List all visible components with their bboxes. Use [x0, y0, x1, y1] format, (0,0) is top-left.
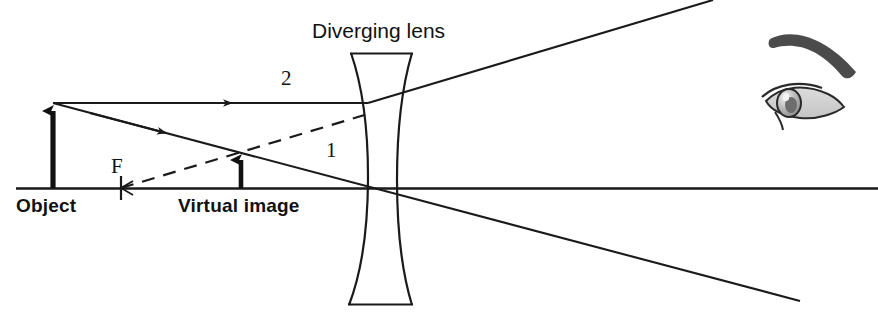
object-label: Object: [16, 196, 76, 215]
diverging-lens-figure: Diverging lens Object Virtual image F 2 …: [0, 0, 878, 323]
focal-point-label: F: [111, 156, 123, 177]
eyebrow-icon: [769, 34, 856, 78]
eye-highlight-icon: [783, 93, 789, 101]
diverging-lens-label: Diverging lens: [312, 20, 445, 41]
ray-1-path: [53, 103, 800, 301]
ray-1-direction-arrow: [90, 113, 166, 133]
ray-two-label: 2: [281, 68, 292, 89]
observer-eye-icon: [762, 34, 856, 130]
diverging-lens: [348, 53, 413, 305]
ray-diagram-canvas: [0, 0, 878, 323]
virtual-image-label: Virtual image: [178, 196, 300, 215]
ray-one-label: 1: [326, 140, 337, 161]
ray-2-refracted: [368, 0, 713, 103]
